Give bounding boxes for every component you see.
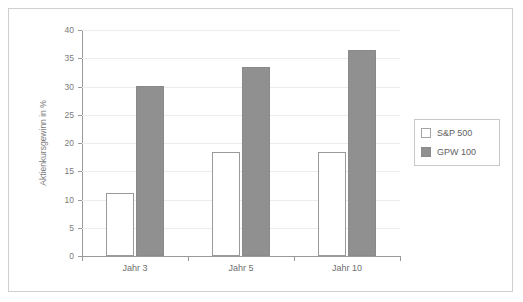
bar-gpw-100-jahr-10 <box>348 50 376 256</box>
legend-item[interactable]: GPW 100 <box>421 144 493 159</box>
x-axis-tick-mark <box>400 256 401 261</box>
y-axis-tick-label: 10 <box>52 196 74 205</box>
x-axis-tick-mark <box>82 256 83 261</box>
x-axis-category-label: Jahr 3 <box>82 263 188 273</box>
y-axis-tick-label: 15 <box>52 167 74 176</box>
gray-square-swatch <box>421 147 431 157</box>
plot-area <box>82 30 400 256</box>
bar-s-p-500-jahr-5 <box>212 152 240 256</box>
legend-item-label: S&P 500 <box>437 128 472 138</box>
y-axis-tick-label: 5 <box>52 224 74 233</box>
bar-gpw-100-jahr-5 <box>242 67 270 256</box>
y-axis-tick-label: 0 <box>52 252 74 261</box>
x-axis-category-label: Jahr 5 <box>188 263 294 273</box>
x-axis-category-label: Jahr 10 <box>294 263 400 273</box>
bar-gpw-100-jahr-3 <box>136 86 164 256</box>
y-axis-tick-label: 40 <box>52 26 74 35</box>
legend: S&P 500GPW 100 <box>414 119 500 166</box>
x-axis-tick-mark <box>294 256 295 261</box>
y-axis-tick-label: 30 <box>52 83 74 92</box>
y-axis-tick-label: 20 <box>52 139 74 148</box>
bar-chart-figure: 0510152025303540 Aktienkursgewinn in % J… <box>0 0 523 302</box>
x-axis-tick-mark <box>188 256 189 261</box>
white-square-swatch <box>421 128 431 138</box>
y-axis-tick-label: 25 <box>52 111 74 120</box>
bar-s-p-500-jahr-10 <box>318 152 346 256</box>
y-axis-tick-label: 35 <box>52 54 74 63</box>
y-axis-title: Aktienkursgewinn in % <box>38 30 48 256</box>
legend-item-label: GPW 100 <box>437 147 476 157</box>
bar-s-p-500-jahr-3 <box>106 193 134 256</box>
legend-item[interactable]: S&P 500 <box>421 125 493 140</box>
